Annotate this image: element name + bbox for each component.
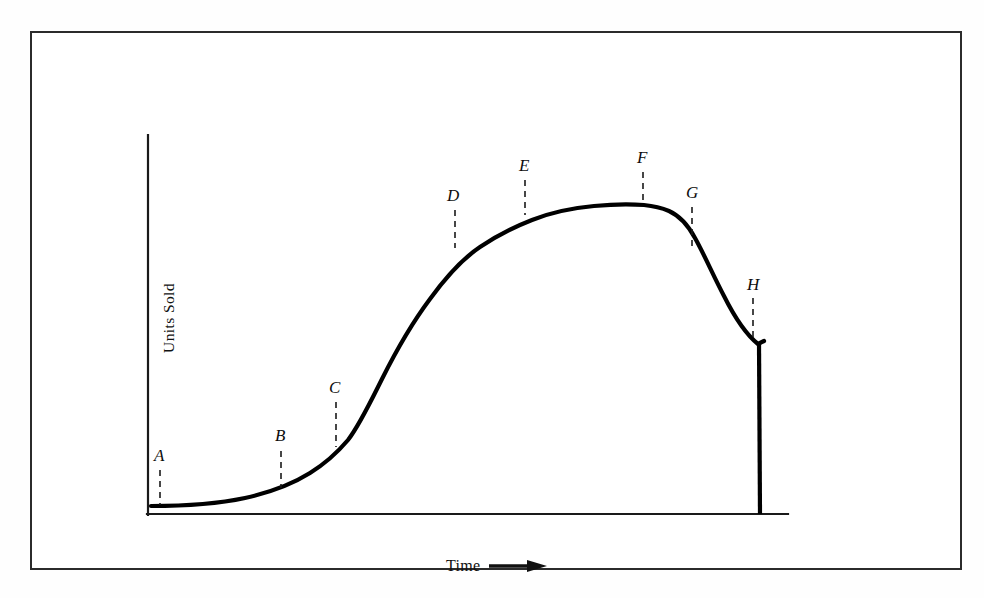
x-axis-title: Time bbox=[446, 557, 480, 575]
stage-label-e: E bbox=[519, 157, 529, 174]
figure-border-frame: Units Sold Time A B C D E F G H bbox=[30, 31, 962, 570]
annotation-leader-lines bbox=[160, 172, 753, 505]
stage-label-a: A bbox=[154, 447, 164, 464]
stage-label-h: H bbox=[747, 276, 759, 293]
product-life-cycle-curve bbox=[151, 204, 764, 506]
x-axis-title-group: Time bbox=[446, 557, 547, 575]
arrow-right-icon bbox=[489, 559, 547, 573]
y-axis-title: Units Sold bbox=[160, 263, 178, 373]
figure-root: Units Sold Time A B C D E F G H bbox=[0, 0, 984, 598]
stage-label-b: B bbox=[275, 427, 285, 444]
stage-label-g: G bbox=[686, 184, 698, 201]
stage-label-c: C bbox=[329, 379, 340, 396]
stage-label-d: D bbox=[447, 187, 459, 204]
curve-terminal-drop bbox=[759, 343, 760, 514]
stage-label-f: F bbox=[637, 149, 647, 166]
